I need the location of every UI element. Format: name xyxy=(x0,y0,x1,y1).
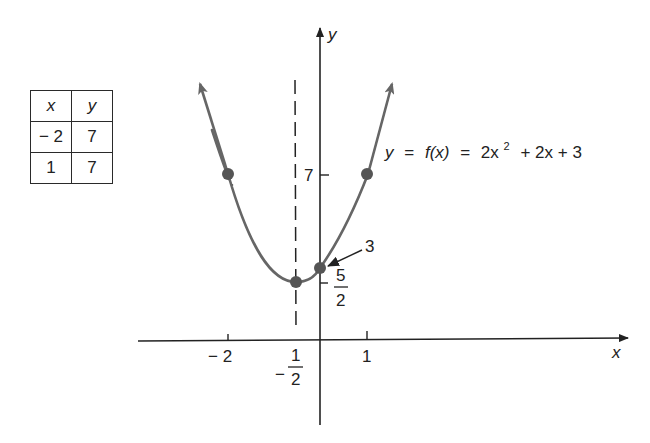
parabola-left-arrow xyxy=(200,84,228,174)
parabola-graph: y x − 2 1 − 1 2 7 5 2 3 y = f(x) = xyxy=(0,0,650,443)
tick-label-x-1: 1 xyxy=(362,347,371,366)
x-axis-label: x xyxy=(611,343,621,362)
y-intercept-annotation-label: 3 xyxy=(365,237,374,256)
point-neg2-7 xyxy=(222,168,234,180)
svg-text:y = f(x) =: y = f(x) = 2x 2 + 2x + 3 xyxy=(384,135,582,162)
y-intercept-annotation-arrow xyxy=(328,250,362,266)
svg-text:2: 2 xyxy=(336,291,345,310)
point-y-intercept xyxy=(314,262,326,274)
tick-label-y-5-2: 5 2 xyxy=(334,266,348,310)
axis-of-symmetry-dashed-line xyxy=(295,80,296,330)
tick-label-y-7: 7 xyxy=(304,166,313,185)
y-axis-label: y xyxy=(327,25,338,44)
x-axis xyxy=(138,338,628,341)
point-vertex xyxy=(290,276,302,288)
tick-label-x-neg2: − 2 xyxy=(208,347,232,366)
svg-text:5: 5 xyxy=(336,266,345,285)
svg-text:1: 1 xyxy=(291,346,300,365)
parabola-curve xyxy=(212,130,368,282)
tick-label-x-neg-half: − 1 2 xyxy=(275,346,303,389)
svg-text:2: 2 xyxy=(291,370,300,389)
point-1-7 xyxy=(361,168,373,180)
function-equation: y = f(x) = 2x 2 + 2x + 3 xyxy=(384,135,582,162)
svg-text:−: − xyxy=(275,365,285,384)
